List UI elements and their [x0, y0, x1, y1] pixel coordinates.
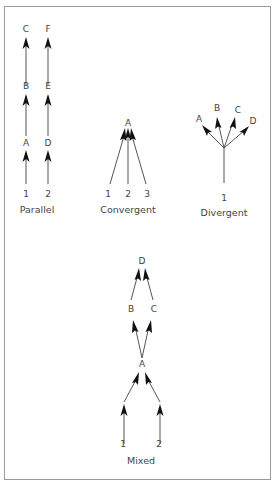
caption-mixed: Mixed [127, 455, 155, 466]
node-c: C [235, 105, 241, 115]
arrowhead-icon [230, 117, 237, 129]
arrowhead-icon [146, 320, 153, 333]
node-b: B [128, 304, 134, 314]
node-c: C [23, 24, 29, 34]
node-d: D [250, 116, 257, 126]
node-1: 1 [120, 439, 126, 449]
node-3: 3 [144, 189, 150, 199]
node-a: A [125, 118, 132, 128]
node-2: 2 [45, 189, 51, 199]
caption-divergent: Divergent [201, 207, 248, 218]
convergent-diagram: A 1 2 3 Convergent [100, 118, 156, 215]
caption-convergent: Convergent [100, 204, 156, 215]
arrow-1-to-a [110, 136, 124, 184]
node-d: D [139, 256, 146, 266]
caption-parallel: Parallel [20, 204, 55, 215]
arrowhead-icon [215, 117, 222, 129]
arrow-3-to-a [132, 136, 146, 184]
mixed-diagram: D B C A 1 2 Mixed [120, 256, 163, 466]
parallel-diagram: C F B E A D 1 2 Parallel [20, 24, 55, 215]
arrow-1-to-a [206, 130, 224, 148]
node-e: E [45, 81, 51, 91]
arrowhead-icon [132, 320, 139, 333]
node-d: D [45, 138, 52, 148]
node-2: 2 [125, 189, 131, 199]
node-c: C [151, 304, 157, 314]
flow-diagrams: C F B E A D 1 2 Parallel A 1 2 3 Converg… [0, 0, 277, 485]
arrowhead-icon [143, 268, 150, 281]
arrowhead-icon [135, 268, 142, 281]
node-a: A [23, 138, 30, 148]
node-1: 1 [23, 189, 29, 199]
node-1: 1 [105, 189, 111, 199]
node-f: F [45, 24, 50, 34]
node-b: B [214, 103, 220, 113]
node-a: A [196, 114, 203, 124]
arrowhead-icon [145, 372, 152, 385]
node-b: B [23, 81, 29, 91]
divergent-diagram: A B C D 1 Divergent [196, 103, 257, 218]
node-2: 2 [156, 439, 162, 449]
arrowhead-icon [240, 126, 250, 136]
node-1: 1 [221, 193, 227, 203]
node-a: A [139, 359, 146, 369]
arrowhead-icon [132, 372, 139, 385]
